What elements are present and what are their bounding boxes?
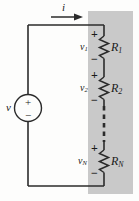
branch-2-minus-sign: −: [91, 94, 98, 106]
branch-n-plus-sign: +: [91, 142, 98, 154]
source-voltage-label: v: [6, 102, 11, 113]
current-label: i: [62, 2, 65, 13]
branch-2-voltage-label: v2: [80, 83, 88, 94]
resistor-2-label: R2: [111, 82, 122, 96]
circuit-figure: i v + − + v1 − R1 + v2 − R2 + vN − RN: [0, 0, 139, 201]
source-plus-sign: +: [25, 97, 31, 108]
circuit-schematic-canvas: [0, 0, 139, 201]
resistor-n-subscript: N: [118, 160, 123, 169]
branch-n-minus-sign: −: [91, 167, 98, 179]
branch-1-plus-sign: +: [91, 28, 98, 40]
current-arrow-head: [74, 14, 83, 21]
branch-1-minus-sign: −: [91, 53, 98, 65]
branch-n-voltage-subscript: N: [82, 159, 86, 166]
resistor-2-subscript: 2: [118, 87, 122, 96]
branch-1-voltage-label: v1: [80, 42, 88, 53]
resistor-1-label: R1: [111, 41, 122, 55]
source-minus-sign: −: [25, 110, 31, 121]
branch-2-plus-sign: +: [91, 69, 98, 81]
resistor-n-label: RN: [111, 155, 124, 169]
branch-2-voltage-subscript: 2: [84, 86, 87, 93]
branch-n-voltage-label: vN: [78, 156, 87, 167]
branch-1-voltage-subscript: 1: [84, 45, 87, 52]
resistor-1-subscript: 1: [118, 46, 122, 55]
